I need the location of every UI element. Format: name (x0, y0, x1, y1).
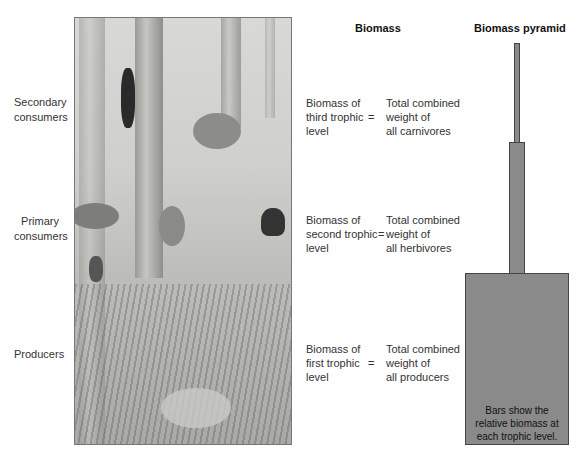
level-label-secondary-consumers: Secondary consumers (14, 95, 66, 125)
biomass-left-text: Biomass of second trophic level (306, 213, 386, 255)
text-line: first trophic (306, 356, 376, 370)
tree-trunk (221, 18, 241, 128)
text-line: level (306, 241, 386, 255)
level-label-primary-consumers: Primary consumers (14, 214, 66, 244)
label-line: Primary (14, 214, 66, 229)
label-line: consumers (14, 110, 66, 125)
chipmunk-icon (89, 256, 103, 282)
text-line: second trophic (306, 227, 386, 241)
tree-trunk (135, 18, 163, 278)
text-line: Total combined (386, 213, 466, 227)
rabbit-icon (74, 203, 119, 229)
equals-sign: = (368, 110, 374, 124)
pyramid-bar-third-trophic (514, 43, 520, 144)
text-line: Biomass of (306, 96, 376, 110)
biomass-header: Biomass (355, 22, 401, 34)
text-line: weight of (386, 110, 466, 124)
pyramid-bar-first-trophic: Bars show the relative biomass at each t… (465, 273, 569, 445)
pyramid-note: Bars show the relative biomass at each t… (466, 404, 568, 443)
text-line: all carnivores (386, 124, 466, 138)
equals-sign: = (368, 356, 374, 370)
note-line: Bars show the (466, 404, 568, 417)
equals-sign: = (378, 227, 384, 241)
note-line: each trophic level. (466, 430, 568, 443)
level-label-producers: Producers (14, 347, 64, 362)
text-line: all producers (386, 370, 466, 384)
text-line: weight of (386, 227, 466, 241)
note-line: relative biomass at (466, 417, 568, 430)
text-line: Total combined (386, 96, 466, 110)
biomass-left-text: Biomass of third trophic level (306, 96, 376, 138)
text-line: Total combined (386, 342, 466, 356)
biomass-right-text: Total combined weight of all producers (386, 342, 466, 384)
tree-trunk (265, 18, 275, 118)
label-line: consumers (14, 229, 66, 244)
biomass-right-text: Total combined weight of all carnivores (386, 96, 466, 138)
text-line: all herbivores (386, 241, 466, 255)
woodpecker-icon (121, 68, 135, 128)
label-line: Secondary (14, 95, 66, 110)
text-line: Biomass of (306, 342, 376, 356)
flowers-icon (161, 388, 231, 428)
text-line: level (306, 370, 376, 384)
text-line: level (306, 124, 376, 138)
text-line: weight of (386, 356, 466, 370)
forest-illustration (74, 17, 292, 445)
label-line: Producers (14, 347, 64, 362)
text-line: Biomass of (306, 213, 386, 227)
biomass-right-text: Total combined weight of all herbivores (386, 213, 466, 255)
fox-icon (193, 113, 241, 149)
biomass-pyramid-header: Biomass pyramid (474, 22, 566, 34)
squirrel-icon (159, 206, 185, 246)
butterfly-icon (261, 208, 285, 236)
biomass-left-text: Biomass of first trophic level (306, 342, 376, 384)
pyramid-bar-second-trophic (509, 142, 525, 274)
text-line: third trophic (306, 110, 376, 124)
